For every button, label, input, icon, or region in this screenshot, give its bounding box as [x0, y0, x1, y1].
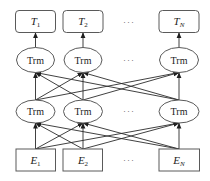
- trm-label: Trm: [75, 106, 92, 117]
- trm-label: Trm: [27, 55, 44, 66]
- upper-trm-1: Trm: [17, 48, 55, 73]
- token-subscript: N: [179, 21, 185, 29]
- input-ellipsis: ···: [123, 155, 135, 165]
- lower-trm-n: Trm: [159, 100, 199, 123]
- embedding-subscript: 2: [85, 160, 89, 168]
- trm-label: Trm: [27, 106, 44, 117]
- trm-label: Trm: [171, 106, 188, 117]
- input-to-lower-arrows: [36, 123, 180, 149]
- upper-transformer-layer: Trm Trm ··· Trm: [17, 48, 199, 73]
- trm-label: Trm: [171, 55, 188, 66]
- token-subscript: 1: [37, 21, 41, 29]
- output-ellipsis: ···: [123, 17, 135, 27]
- output-token-n: TN: [159, 11, 199, 33]
- embedding-subscript: 1: [37, 160, 41, 168]
- input-embedding-row: E1 E2 ··· EN: [16, 149, 200, 171]
- upper-trm-n: Trm: [160, 48, 199, 73]
- token-subscript: 2: [84, 21, 88, 29]
- trm-label: Trm: [75, 55, 92, 66]
- input-embedding-2: E2: [63, 149, 103, 171]
- output-token-row: T1 T2 ··· TN: [16, 11, 200, 33]
- upper-to-output-arrows: [36, 33, 180, 48]
- lower-trm-1: Trm: [16, 100, 55, 123]
- upper-ellipsis: ···: [123, 55, 135, 65]
- embedding-subscript: N: [179, 160, 185, 168]
- lower-transformer-layer: Trm Trm ··· Trm: [16, 100, 199, 123]
- output-token-1: T1: [16, 11, 56, 33]
- output-token-2: T2: [63, 11, 103, 33]
- upper-trm-2: Trm: [64, 48, 102, 73]
- input-embedding-1: E1: [16, 149, 56, 171]
- input-embedding-n: EN: [159, 149, 200, 171]
- lower-ellipsis: ···: [123, 106, 135, 116]
- bert-architecture-diagram: T1 T2 ··· TN Trm Trm ··· Trm Trm: [0, 0, 210, 181]
- lower-trm-2: Trm: [64, 100, 103, 123]
- lower-to-upper-arrows: [36, 73, 180, 101]
